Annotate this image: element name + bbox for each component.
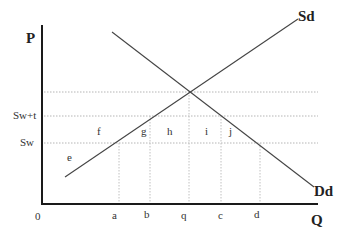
region-label-f: f <box>97 126 101 137</box>
quantity-label-a: a <box>112 210 117 221</box>
region-label-j: j <box>229 126 232 137</box>
region-label-g: g <box>141 126 147 137</box>
x-axis-label: Q <box>311 213 323 228</box>
supply-curve-label: Sd <box>298 9 315 24</box>
price-label-sw-t: Sw+t <box>13 110 36 121</box>
demand-curve-label: Dd <box>314 184 333 199</box>
region-label-i: i <box>205 126 208 137</box>
quantity-label-c: c <box>218 210 223 221</box>
region-label-e: e <box>67 152 72 163</box>
supply-curve <box>65 19 298 177</box>
diagram-canvas <box>0 0 344 235</box>
quantity-label-b: b <box>144 209 150 220</box>
supply-demand-diagram: P Q 0 Sw+t Sw a b q c d Sd Dd e f g h i … <box>0 0 344 235</box>
region-label-h: h <box>167 126 173 137</box>
demand-curve <box>112 32 314 187</box>
origin-label: 0 <box>35 211 41 222</box>
y-axis-label: P <box>26 31 35 46</box>
price-label-sw: Sw <box>20 137 34 148</box>
quantity-label-d: d <box>254 209 260 220</box>
quantity-label-q: q <box>181 210 187 221</box>
